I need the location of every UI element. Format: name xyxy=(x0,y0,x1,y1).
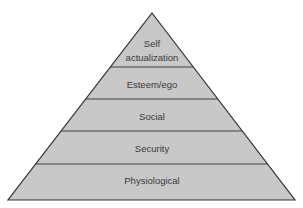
pyramid-diagram: Self actualization Esteem/ego Social Sec… xyxy=(0,0,303,208)
level-self-actualization-line2: actualization xyxy=(126,52,179,63)
level-esteem-ego: Esteem/ego xyxy=(127,79,178,90)
level-security: Security xyxy=(135,143,170,154)
level-social: Social xyxy=(139,111,165,122)
level-self-actualization-line1: Self xyxy=(144,38,161,49)
level-physiological: Physiological xyxy=(124,175,179,186)
